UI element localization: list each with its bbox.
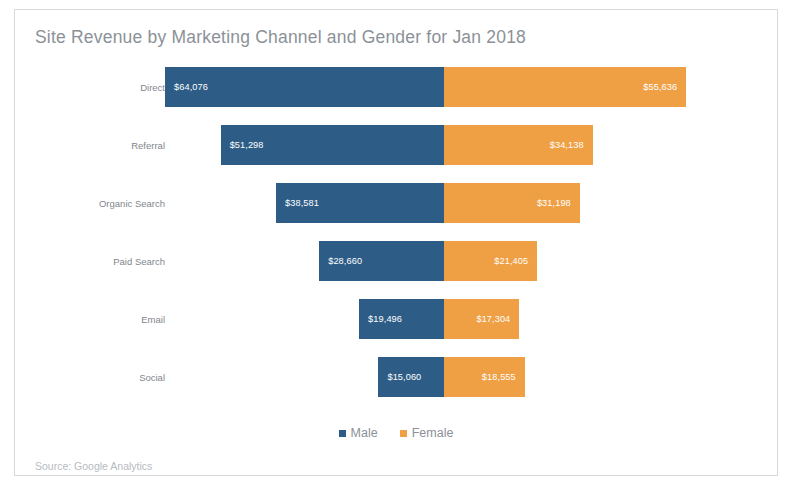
- bar-group: $15,060$18,555: [15, 357, 777, 397]
- bar-group: $28,660$21,405: [15, 241, 777, 281]
- bar-group: $19,496$17,304: [15, 299, 777, 339]
- bar-segment-female: $17,304: [444, 299, 519, 339]
- bar-segment-female: $18,555: [444, 357, 525, 397]
- legend-label: Male: [351, 426, 378, 440]
- chart-row: Email$19,496$17,304: [15, 296, 777, 342]
- bar-segment-male: $15,060: [378, 357, 444, 397]
- bar-segment-female: $31,198: [444, 183, 580, 223]
- bar-segment-male: $51,298: [221, 125, 444, 165]
- chart-legend: MaleFemale: [15, 426, 777, 440]
- chart-card: Site Revenue by Marketing Channel and Ge…: [14, 9, 778, 476]
- chart-title: Site Revenue by Marketing Channel and Ge…: [35, 27, 526, 48]
- chart-plot-area: Direct$64,076$55,636Referral$51,298$34,1…: [15, 62, 777, 417]
- legend-item-female[interactable]: Female: [400, 426, 454, 440]
- chart-row: Social$15,060$18,555: [15, 354, 777, 400]
- legend-swatch-icon: [339, 430, 346, 437]
- bar-value-male: $28,660: [328, 256, 362, 266]
- bar-group: $51,298$34,138: [15, 125, 777, 165]
- bar-segment-male: $28,660: [319, 241, 444, 281]
- legend-item-male[interactable]: Male: [339, 426, 378, 440]
- bar-value-male: $38,581: [285, 198, 319, 208]
- legend-swatch-icon: [400, 430, 407, 437]
- bar-value-male: $64,076: [174, 82, 208, 92]
- bar-value-male: $15,060: [387, 372, 421, 382]
- bar-value-male: $51,298: [230, 140, 264, 150]
- chart-row: Organic Search$38,581$31,198: [15, 180, 777, 226]
- bar-segment-female: $55,636: [444, 67, 686, 107]
- source-note: Source: Google Analytics: [35, 460, 152, 472]
- legend-label: Female: [412, 426, 454, 440]
- bar-group: $64,076$55,636: [15, 67, 777, 107]
- bar-segment-female: $34,138: [444, 125, 593, 165]
- bar-segment-male: $19,496: [359, 299, 444, 339]
- bar-value-female: $21,405: [494, 256, 528, 266]
- bar-value-female: $31,198: [537, 198, 571, 208]
- bar-segment-female: $21,405: [444, 241, 537, 281]
- bar-value-male: $19,496: [368, 314, 402, 324]
- chart-row: Direct$64,076$55,636: [15, 64, 777, 110]
- bar-segment-male: $38,581: [276, 183, 444, 223]
- chart-row: Paid Search$28,660$21,405: [15, 238, 777, 284]
- bar-group: $38,581$31,198: [15, 183, 777, 223]
- bar-value-female: $34,138: [550, 140, 584, 150]
- chart-row: Referral$51,298$34,138: [15, 122, 777, 168]
- bar-value-female: $17,304: [476, 314, 510, 324]
- bar-value-female: $55,636: [643, 82, 677, 92]
- bar-value-female: $18,555: [482, 372, 516, 382]
- bar-segment-male: $64,076: [165, 67, 444, 107]
